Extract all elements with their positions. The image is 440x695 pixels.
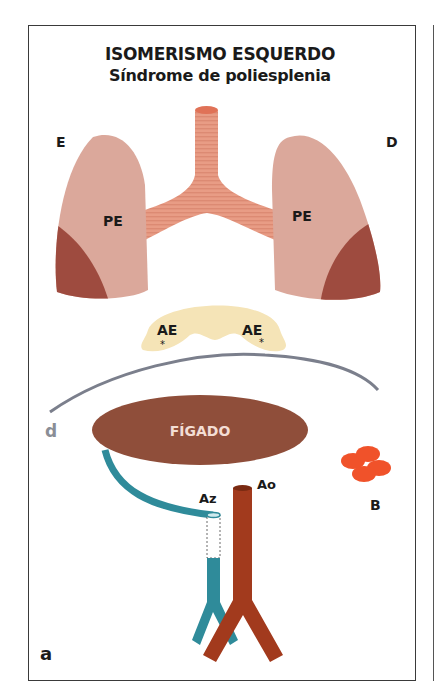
liver-label: FÍGADO (170, 423, 231, 439)
right-lung (272, 135, 390, 305)
azygos-label: Az (199, 491, 217, 506)
left-lung-label: PE (103, 213, 123, 229)
left-atrium-marker: * (160, 339, 165, 350)
right-lung-label: PE (292, 208, 312, 224)
right-side-label: D (386, 134, 398, 150)
polysplenia-spleens (341, 446, 391, 482)
azygos-vein (105, 450, 238, 645)
panel-label: a (40, 643, 52, 664)
left-side-label: E (56, 134, 66, 150)
left-lung (40, 135, 148, 305)
right-atrium-marker: * (259, 337, 264, 348)
diaphragm-label: d (45, 421, 57, 441)
right-atrium-label: AE (242, 322, 262, 338)
aorta-label: Ao (257, 477, 276, 492)
spleen-label: B (370, 497, 381, 513)
trachea (145, 106, 275, 240)
left-atrium-label: AE (157, 322, 177, 338)
anatomy-diagram: E D PE PE AE AE * * d FÍGADO Az Ao B a (0, 0, 440, 695)
